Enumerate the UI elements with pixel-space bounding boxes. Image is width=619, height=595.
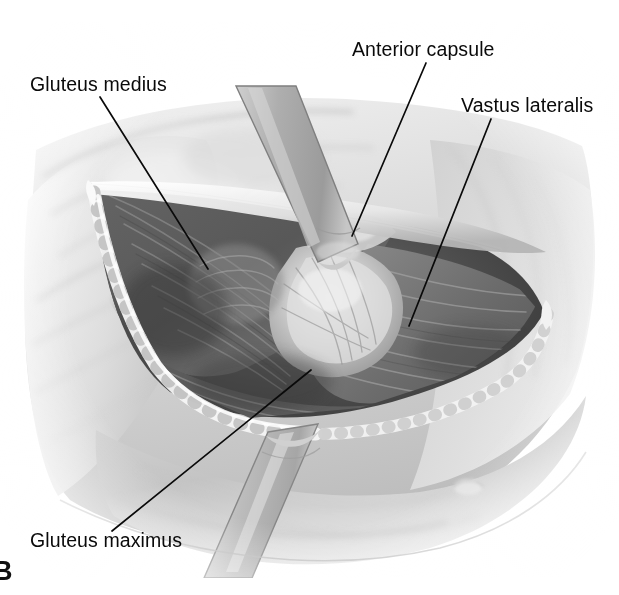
label-gluteus-medius: Gluteus medius: [30, 75, 167, 95]
label-anterior-capsule: Anterior capsule: [352, 40, 495, 60]
label-gluteus-maximus: Gluteus maximus: [30, 531, 182, 551]
figure-panel-letter: B: [0, 558, 13, 585]
figure-container: Gluteus medius Anterior capsule Vastus l…: [0, 0, 619, 595]
label-vastus-lateralis: Vastus lateralis: [461, 96, 593, 116]
